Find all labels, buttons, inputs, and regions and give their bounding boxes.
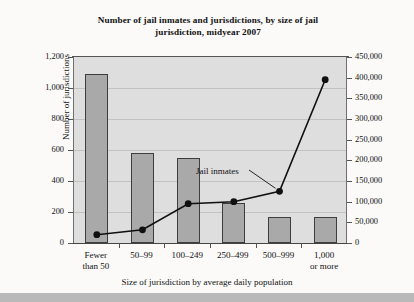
left-axis-title: Number of jurisdictions [61,17,71,177]
chart-title-line-2: jurisdiction, midyear 2007 [62,26,354,38]
x-axis-tick [210,243,211,248]
left-axis-tick [68,181,73,182]
x-axis-tick [164,243,165,248]
right-axis-tick [347,57,352,58]
data-point [139,226,146,233]
data-point [185,200,192,207]
data-point [230,198,237,205]
left-axis-tick [68,212,73,213]
line-path [97,80,325,235]
right-axis-tick [347,222,352,223]
left-axis-label: 0 [18,238,64,247]
x-axis-tick [256,243,257,248]
chart-title-line-1: Number of jail inmates and jurisdictions… [62,14,354,26]
right-axis-tick [347,243,352,244]
left-axis-label: 1,000 [18,83,64,92]
right-axis-tick [347,140,352,141]
right-axis-label: 250,000 [355,135,409,144]
left-axis-label: 600 [18,145,64,154]
right-axis-label: 150,000 [355,176,409,185]
left-axis-label: 800 [18,114,64,123]
chart-page: Number of jail inmates and jurisdictions… [0,0,414,302]
plot-area [73,57,347,243]
x-axis-tick [119,243,120,248]
x-axis-category-line: or more [291,261,357,272]
right-axis-label: 350,000 [355,93,409,102]
data-point [322,76,329,83]
right-axis-tick [347,78,352,79]
right-axis-label: 50,000 [355,217,409,226]
right-axis-tick [347,160,352,161]
chart-title: Number of jail inmates and jurisdictions… [62,14,354,38]
line-series [74,57,348,243]
right-axis-label: 200,000 [355,155,409,164]
left-axis-tick [68,243,73,244]
x-axis-category-label: 1,000or more [291,250,357,272]
data-point [93,231,100,238]
x-axis-category-line: 1,000 [291,250,357,261]
x-axis-title: Size of jurisdiction by average daily po… [0,277,414,287]
left-axis-label: 400 [18,176,64,185]
left-axis-label: 1,200 [18,52,64,61]
right-axis-tick [347,181,352,182]
bottom-strip [0,293,414,302]
right-axis-tick [347,98,352,99]
x-axis-category-line: than 50 [63,261,129,272]
left-axis-label: 200 [18,207,64,216]
right-axis-tick [347,119,352,120]
right-axis-label: 300,000 [355,114,409,123]
right-axis-label: 400,000 [355,73,409,82]
data-point [276,188,283,195]
right-axis-label: 100,000 [355,197,409,206]
right-axis-label: 0 [355,238,409,247]
right-axis-label: 450,000 [355,52,409,61]
annotation-jail-inmates: Jail inmates [196,166,239,176]
x-axis-tick [301,243,302,248]
right-axis-tick [347,202,352,203]
